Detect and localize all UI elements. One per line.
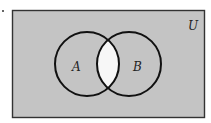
venn-diagram: A B U	[0, 0, 211, 123]
set-b-label: B	[132, 60, 142, 74]
bullet-mark	[2, 10, 4, 12]
universe-label: U	[188, 19, 199, 33]
set-a-label: A	[71, 60, 81, 74]
